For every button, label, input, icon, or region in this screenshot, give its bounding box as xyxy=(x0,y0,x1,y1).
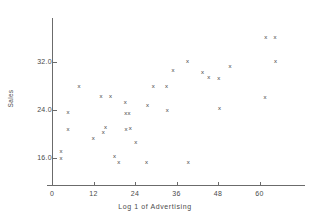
data-point-marker: x xyxy=(103,124,109,130)
data-point-marker: x xyxy=(164,107,170,113)
y-tick-mark xyxy=(52,62,57,63)
data-point-marker: x xyxy=(216,75,222,81)
data-point-marker: x xyxy=(133,139,139,145)
x-tick-label: 0 xyxy=(42,190,62,197)
data-point-marker: x xyxy=(185,58,191,64)
x-tick-label: 36 xyxy=(167,190,187,197)
y-axis-line xyxy=(52,18,53,185)
data-point-marker: x xyxy=(216,105,222,111)
data-point-marker: x xyxy=(126,110,132,116)
data-point-marker: x xyxy=(262,94,268,100)
data-point-marker: x xyxy=(58,155,64,161)
data-point-marker: x xyxy=(122,99,128,105)
data-point-marker: x xyxy=(150,83,156,89)
data-point-marker: x xyxy=(76,83,82,89)
data-point-marker: x xyxy=(58,148,64,154)
x-tick-label: 24 xyxy=(125,190,145,197)
x-tick-mark xyxy=(218,182,219,186)
data-point-marker: x xyxy=(143,159,149,165)
data-point-marker: x xyxy=(272,58,278,64)
y-tick-label: 24.0 xyxy=(22,106,52,113)
y-tick-mark xyxy=(52,110,57,111)
data-point-marker: x xyxy=(98,93,104,99)
x-tick-mark xyxy=(94,182,95,186)
y-tick-label: 32.0 xyxy=(22,58,52,65)
x-tick-mark xyxy=(177,182,178,186)
data-point-marker: x xyxy=(263,34,269,40)
x-axis-title: Log 1 of Advertising xyxy=(0,203,310,210)
data-point-marker: x xyxy=(127,125,133,131)
x-tick-mark xyxy=(260,182,261,186)
data-point-marker: x xyxy=(170,67,176,73)
data-point-marker: x xyxy=(185,159,191,165)
data-point-marker: x xyxy=(199,69,205,75)
data-point-marker: x xyxy=(90,135,96,141)
data-point-marker: x xyxy=(65,109,71,115)
data-point-marker: x xyxy=(144,102,150,108)
x-tick-label: 48 xyxy=(208,190,228,197)
x-tick-label: 12 xyxy=(84,190,104,197)
x-tick-mark xyxy=(52,182,53,186)
data-point-marker: x xyxy=(107,93,113,99)
scatter-plot-figure: 01224364860 16.024.032.0 xxxxxxxxxxxxxxx… xyxy=(0,0,310,223)
plot-area: 01224364860 16.024.032.0 xxxxxxxxxxxxxxx… xyxy=(0,0,310,223)
x-tick-label: 60 xyxy=(250,190,270,197)
data-point-marker: x xyxy=(65,126,71,132)
data-point-marker: x xyxy=(163,83,169,89)
y-axis-title: Sales xyxy=(7,79,14,119)
x-tick-mark xyxy=(135,182,136,186)
data-point-marker: x xyxy=(116,159,122,165)
data-point-marker: x xyxy=(206,74,212,80)
data-point-marker: x xyxy=(272,34,278,40)
y-tick-mark xyxy=(52,158,57,159)
y-tick-label: 16.0 xyxy=(22,154,52,161)
data-point-marker: x xyxy=(227,63,233,69)
